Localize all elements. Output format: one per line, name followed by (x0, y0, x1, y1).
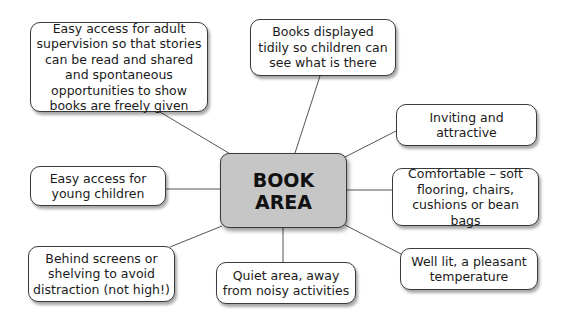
node-behind-screens: Behind screens or shelving to avoid dist… (28, 246, 175, 302)
node-well-lit: Well lit, a pleasant temperature (400, 248, 538, 290)
node-text: Quiet area, away from noisy activities (221, 268, 351, 299)
node-text: Inviting and attractive (401, 110, 532, 141)
node-text: Easy access for adult supervision so tha… (35, 21, 203, 114)
node-adult-supervision: Easy access for adult supervision so tha… (30, 22, 208, 112)
node-text: Well lit, a pleasant temperature (405, 254, 533, 285)
center-title-line2: AREA (253, 191, 315, 213)
node-displayed-tidily: Books displayed tidily so children can s… (250, 19, 396, 76)
node-quiet-area: Quiet area, away from noisy activities (216, 262, 356, 304)
node-text: Comfortable – soft flooring, chairs, cus… (397, 166, 534, 228)
center-book-area: BOOK AREA (220, 153, 347, 228)
node-text: Behind screens or shelving to avoid dist… (33, 251, 170, 298)
node-young-children: Easy access for young children (30, 166, 166, 206)
node-comfortable: Comfortable – soft flooring, chairs, cus… (392, 168, 539, 226)
node-text: Easy access for young children (35, 171, 161, 202)
node-text: Books displayed tidily so children can s… (255, 24, 391, 71)
center-title-line1: BOOK (253, 169, 315, 191)
node-inviting: Inviting and attractive (396, 104, 537, 146)
